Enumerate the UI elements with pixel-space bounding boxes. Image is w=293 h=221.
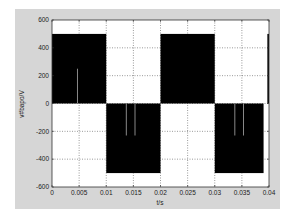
pulse-block — [52, 34, 106, 104]
x-tick-label: 0 — [50, 189, 54, 196]
x-axis-label: t/s — [157, 199, 165, 206]
chart-canvas: 00.0050.010.0150.020.0250.030.0350.04 60… — [0, 0, 293, 221]
x-tick-label: 0.035 — [234, 189, 251, 196]
x-tick-label: 0.005 — [71, 189, 88, 196]
y-tick-label: -400 — [36, 155, 49, 162]
y-tick-label: -200 — [36, 128, 49, 135]
x-tick-label: 0.04 — [263, 189, 276, 196]
x-tick-label: 0.025 — [179, 189, 196, 196]
y-tick-label: -600 — [36, 183, 49, 190]
x-tick-label: 0.01 — [100, 189, 113, 196]
pulse-block — [161, 34, 215, 104]
y-tick-label: 200 — [38, 72, 49, 79]
pulse-block — [106, 104, 160, 174]
x-tick-label: 0.015 — [125, 189, 142, 196]
y-tick-label: 600 — [38, 16, 49, 23]
x-tick-label: 0.02 — [154, 189, 167, 196]
y-tick-label: 400 — [38, 44, 49, 51]
pulse-block — [215, 104, 264, 174]
y-axis-label: v#bapo/V — [18, 90, 26, 118]
y-tick-label: 0 — [45, 100, 49, 107]
x-tick-label: 0.03 — [208, 189, 221, 196]
